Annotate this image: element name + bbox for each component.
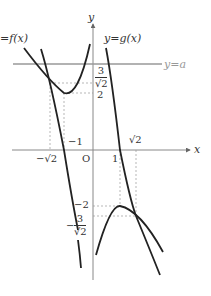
- frac-num: 3: [95, 66, 107, 76]
- tick-1: 1: [112, 154, 118, 164]
- frac-num: 3: [74, 214, 86, 224]
- line-a-label: y=a: [164, 59, 186, 70]
- curve-f-lower: [96, 206, 163, 255]
- curve-g-left-tail: [78, 240, 81, 268]
- tick-minus-1: −1: [68, 137, 83, 147]
- g-curve-label: y=g(x): [104, 33, 141, 44]
- tick-minus-root2: −√2: [36, 154, 57, 164]
- origin-label: O: [82, 154, 90, 164]
- f-curve-label: =f(x): [0, 33, 28, 44]
- tick-3-over-root2-top: 3 √2: [95, 66, 107, 89]
- curve-f: [24, 44, 90, 93]
- frac-den: √2: [74, 227, 86, 237]
- tick-minus-3-over-root2: 3 √2: [74, 214, 86, 237]
- tick-root2: √2: [129, 135, 142, 145]
- x-axis-label: x: [194, 144, 200, 155]
- tick-2-top: 2: [97, 90, 103, 100]
- tick-minus-2: −2: [74, 200, 89, 210]
- frac-den: √2: [95, 79, 107, 89]
- y-axis-label: y: [88, 12, 94, 23]
